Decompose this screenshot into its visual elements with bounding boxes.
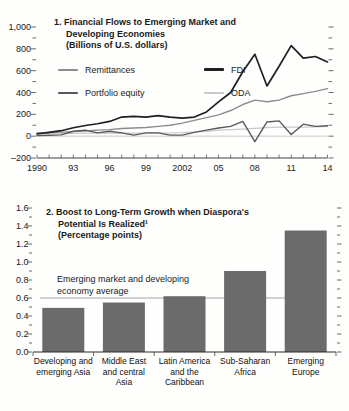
y-axis-label: 600 xyxy=(16,66,31,76)
legend-column-2: FDIODA xyxy=(204,64,251,110)
x-axis-label: 05 xyxy=(214,163,224,173)
panel-financial-flows: –20002004006008001,000199093969920020508… xyxy=(0,0,349,190)
y-axis-label: 1.2 xyxy=(16,239,29,249)
panel1-title: 1. Financial Flows to Emerging Market an… xyxy=(54,17,236,52)
legend-label-portfolio-equity: Portfolio equity xyxy=(85,88,145,98)
x-axis-label: 08 xyxy=(250,163,260,173)
legend-item-fdi: FDI xyxy=(204,64,251,75)
average-annotation-line2: economy average xyxy=(57,286,189,298)
y-axis-label: 400 xyxy=(16,88,31,98)
category-label-latin-america-and-the-caribbean: Latin America xyxy=(159,356,211,366)
legend-swatch-fdi xyxy=(204,68,224,71)
legend-column-1: RemittancesPortfolio equity xyxy=(58,64,145,110)
legend-swatch-oda xyxy=(204,92,224,94)
category-label-latin-america-and-the-caribbean: and the xyxy=(170,367,199,377)
bar-middle-east-and-central-asia xyxy=(103,303,145,353)
series-portfolio-equity-line xyxy=(37,121,328,142)
bar-latin-america-and-the-caribbean xyxy=(164,296,206,352)
category-label-middle-east-and-central-asia: Asia xyxy=(116,377,133,387)
average-annotation: Emerging market and developing economy a… xyxy=(57,274,189,297)
x-axis-label: 96 xyxy=(105,163,115,173)
category-label-middle-east-and-central-asia: Middle East xyxy=(102,356,147,366)
x-axis-label: 11 xyxy=(287,163,296,173)
bar-sub-saharan-africa xyxy=(224,271,266,352)
legend-label-remittances: Remittances xyxy=(85,65,135,75)
x-axis-label: 93 xyxy=(68,163,78,173)
category-label-developing-and-emerging-asia: Developing and xyxy=(34,356,93,366)
panel-growth-boost: 0.00.20.40.60.81.01.21.41.6Developing an… xyxy=(0,190,349,411)
bar-emerging-europe xyxy=(285,231,327,353)
legend-item-oda: ODA xyxy=(204,87,251,98)
category-label-emerging-europe: Europe xyxy=(292,367,320,377)
category-label-developing-and-emerging-asia: emerging Asia xyxy=(36,367,90,377)
category-label-emerging-europe: Emerging xyxy=(288,356,325,366)
y-axis-label: 1.4 xyxy=(16,221,29,231)
y-axis-label: 0 xyxy=(26,131,31,141)
panel1-title-line1: 1. Financial Flows to Emerging Market an… xyxy=(54,17,236,29)
y-axis-label: 200 xyxy=(16,109,31,119)
y-axis-label: –200 xyxy=(11,153,31,163)
category-label-latin-america-and-the-caribbean: Caribbean xyxy=(165,377,204,387)
x-axis-label: 1990 xyxy=(27,163,47,173)
category-label-sub-saharan-africa: Sub-Saharan xyxy=(220,356,270,366)
y-axis-label: 1.0 xyxy=(16,257,29,267)
x-axis-label: 2002 xyxy=(172,163,192,173)
y-axis-label: 0.8 xyxy=(16,275,29,285)
legend-item-remittances: Remittances xyxy=(58,64,145,75)
legend-item-portfolio-equity: Portfolio equity xyxy=(58,87,145,98)
legend-label-fdi: FDI xyxy=(231,65,246,75)
panel2-title-line2: Potential Is Realized¹ xyxy=(58,219,249,231)
average-annotation-line1: Emerging market and developing xyxy=(57,274,189,286)
legend-swatch-portfolio-equity xyxy=(58,92,78,94)
legend-swatch-remittances xyxy=(58,69,78,71)
y-axis-label: 800 xyxy=(16,44,31,54)
y-axis-label: 1.6 xyxy=(16,203,29,213)
y-axis-label: 0.4 xyxy=(16,311,29,321)
x-axis-label: 14 xyxy=(322,163,332,173)
panel1-subtitle: (Billions of U.S. dollars) xyxy=(66,40,236,52)
panel2-subtitle: (Percentage points) xyxy=(58,230,249,242)
figure-financial-flows-and-growth: –20002004006008001,000199093969920020508… xyxy=(0,0,349,411)
panel1-title-line2: Developing Economies xyxy=(66,29,236,41)
category-label-sub-saharan-africa: Africa xyxy=(234,367,256,377)
y-axis-label: 1,000 xyxy=(8,22,31,32)
legend-label-oda: ODA xyxy=(231,88,251,98)
bar-developing-and-emerging-asia xyxy=(42,308,84,352)
panel2-title-line1: 2. Boost to Long-Term Growth when Diaspo… xyxy=(46,207,249,219)
series-oda-line xyxy=(37,126,328,133)
y-axis-label: 0.2 xyxy=(16,329,29,339)
category-label-middle-east-and-central-asia: and central xyxy=(103,367,145,377)
y-axis-label: 0.0 xyxy=(16,347,29,357)
x-axis-label: 99 xyxy=(141,163,151,173)
y-axis-label: 0.6 xyxy=(16,293,29,303)
panel2-title: 2. Boost to Long-Term Growth when Diaspo… xyxy=(46,207,249,242)
